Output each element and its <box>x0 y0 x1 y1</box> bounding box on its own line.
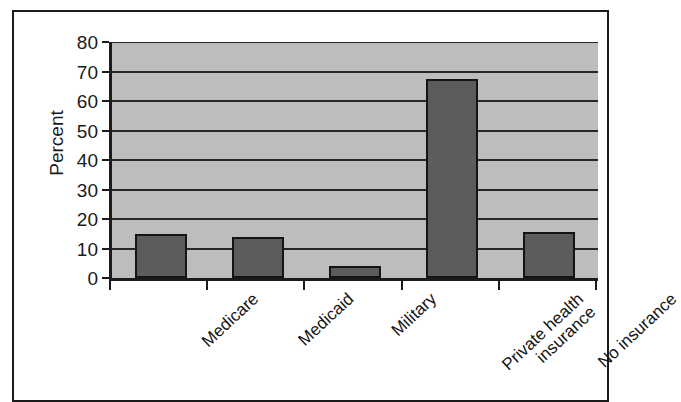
gridline <box>112 218 598 220</box>
x-tick-label: Military <box>388 290 440 340</box>
plot-area <box>109 42 598 281</box>
x-tick-mark <box>206 281 208 290</box>
y-tick-mark <box>102 248 109 250</box>
bar <box>329 266 381 278</box>
y-tick-label: 60 <box>64 92 98 111</box>
y-tick-mark <box>102 71 109 73</box>
x-tick-label: Private health insurance <box>499 290 600 388</box>
x-tick-mark <box>303 281 305 290</box>
gridline <box>112 189 598 191</box>
y-tick-mark <box>102 100 109 102</box>
bar <box>426 79 478 278</box>
y-tick-label: 70 <box>64 62 98 81</box>
y-tick-label: 30 <box>64 180 98 199</box>
y-tick-label: 50 <box>64 121 98 140</box>
gridline <box>112 100 598 102</box>
x-tick-mark <box>401 281 403 290</box>
y-tick-label: 20 <box>64 210 98 229</box>
bar <box>135 234 187 278</box>
y-tick-label: 80 <box>64 33 98 52</box>
x-tick-mark <box>498 281 500 290</box>
gridline <box>112 159 598 161</box>
x-axis-tick-labels: MedicareMedicaidMilitaryPrivate health i… <box>109 290 598 390</box>
bar <box>232 237 284 278</box>
plot-inner <box>112 42 598 278</box>
y-tick-mark <box>102 277 109 279</box>
x-axis-tick-marks <box>109 281 598 290</box>
y-tick-mark <box>102 41 109 43</box>
y-tick-label: 40 <box>64 151 98 170</box>
x-tick-label: Medicare <box>198 290 262 351</box>
gridline <box>112 42 598 43</box>
x-tick-mark <box>595 281 597 290</box>
y-tick-mark <box>102 130 109 132</box>
x-tick-label: Medicaid <box>295 290 357 350</box>
y-tick-label: 10 <box>64 239 98 258</box>
y-axis-tick-labels: 01020304050607080 <box>60 42 98 278</box>
gridline <box>112 130 598 132</box>
bar <box>523 232 575 278</box>
y-tick-mark <box>102 159 109 161</box>
gridline <box>112 71 598 73</box>
y-tick-label: 0 <box>64 269 98 288</box>
y-tick-mark <box>102 189 109 191</box>
y-tick-mark <box>102 218 109 220</box>
figure-border: Percent 01020304050607080 MedicareMedica… <box>12 10 609 402</box>
x-tick-mark <box>109 281 111 290</box>
x-tick-label: No insurance <box>595 290 681 372</box>
